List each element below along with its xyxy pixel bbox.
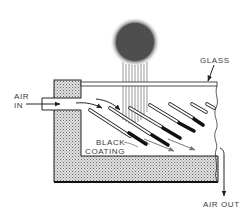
black-coating-label-line1: BLACK bbox=[96, 138, 125, 147]
air-in-label-line1: AIR bbox=[14, 92, 29, 101]
absorber-plate bbox=[130, 108, 180, 138]
glass-leader-arrow bbox=[208, 65, 214, 81]
glass-cover bbox=[81, 82, 217, 86]
insulation-top bbox=[54, 80, 81, 98]
absorber-plate bbox=[150, 105, 194, 131]
absorber-plate bbox=[192, 104, 206, 112]
absorber-plate bbox=[207, 104, 214, 108]
solar-collector-diagram: GLASS AIR IN BLACK COATING AIR OUT bbox=[0, 0, 248, 220]
air-out-label: AIR OUT bbox=[203, 200, 240, 209]
glass-label: GLASS bbox=[200, 56, 230, 65]
black-coating-leader bbox=[124, 142, 138, 147]
sun-icon bbox=[110, 17, 160, 67]
black-coating-label-line2: COATING bbox=[85, 147, 125, 156]
air-out-arrow bbox=[220, 148, 224, 196]
air-in-label-line2: IN bbox=[14, 101, 23, 110]
